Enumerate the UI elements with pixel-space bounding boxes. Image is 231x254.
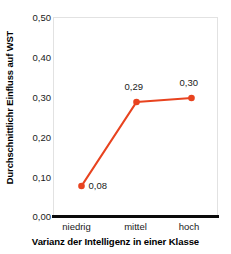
- y-axis-title-text: Durchschnittlichr Einfluss auf WST: [5, 31, 16, 184]
- data-point-marker: [78, 183, 85, 190]
- y-tick-label: 0,50: [21, 12, 51, 23]
- y-tick-label: 0,10: [21, 172, 51, 183]
- y-axis-tick-labels: 0,50 0,40 0,30 0,20 0,10 0,00: [20, 0, 51, 254]
- y-tick-label: 0,00: [21, 211, 51, 222]
- x-category-label: hoch: [179, 221, 200, 232]
- data-point-label: 0,08: [89, 180, 108, 191]
- x-axis-title: Varianz der Intelligenz in einer Klasse: [0, 236, 231, 247]
- plot-area: 0,08 0,29 0,30: [53, 17, 218, 217]
- x-category-label: mittel: [124, 221, 147, 232]
- x-axis-category-labels: niedrig mittel hoch: [53, 221, 218, 235]
- series-line: [82, 98, 192, 186]
- y-tick-label: 0,30: [21, 92, 51, 103]
- y-tick-label: 0,40: [21, 52, 51, 63]
- x-category-label: niedrig: [62, 221, 91, 232]
- line-chart: Durchschnittlichr Einfluss auf WST 0,50 …: [0, 0, 231, 254]
- data-point-label: 0,29: [125, 81, 144, 92]
- y-axis-title: Durchschnittlichr Einfluss auf WST: [0, 0, 20, 215]
- y-tick-label: 0,20: [21, 132, 51, 143]
- x-axis-baseline: [52, 215, 219, 218]
- series-line-group: [54, 18, 219, 218]
- data-point-marker: [133, 99, 140, 106]
- data-point-marker: [188, 95, 195, 102]
- data-point-label: 0,30: [180, 77, 199, 88]
